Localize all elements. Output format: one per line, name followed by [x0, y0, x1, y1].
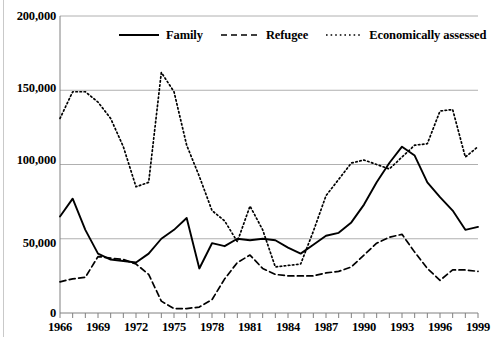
- x-axis-tick-label: 1999: [456, 320, 497, 335]
- legend-label: Refugee: [266, 28, 308, 43]
- legend: Family Refugee Economically assessed: [118, 26, 458, 44]
- dashed-line-icon: [220, 29, 260, 41]
- plot-area: [0, 0, 497, 337]
- x-axis-labels: 1966196919721975197819811984198719901993…: [0, 318, 497, 337]
- legend-item-family: Family: [118, 28, 203, 43]
- series-line-economically-assessed: [60, 72, 478, 267]
- legend-label: Family: [166, 28, 203, 43]
- series-line-refugee: [60, 234, 478, 308]
- solid-line-icon: [118, 29, 160, 41]
- data-series-group: [60, 72, 478, 308]
- legend-label: Economically assessed: [369, 28, 486, 43]
- legend-item-economically-assessed: Economically assessed: [325, 28, 486, 43]
- chart-figure: 200,000 150,000 100,000 50,000 0 Family …: [0, 0, 497, 337]
- gridlines: [60, 16, 478, 239]
- legend-item-refugee: Refugee: [220, 28, 308, 43]
- dotted-line-icon: [325, 29, 363, 41]
